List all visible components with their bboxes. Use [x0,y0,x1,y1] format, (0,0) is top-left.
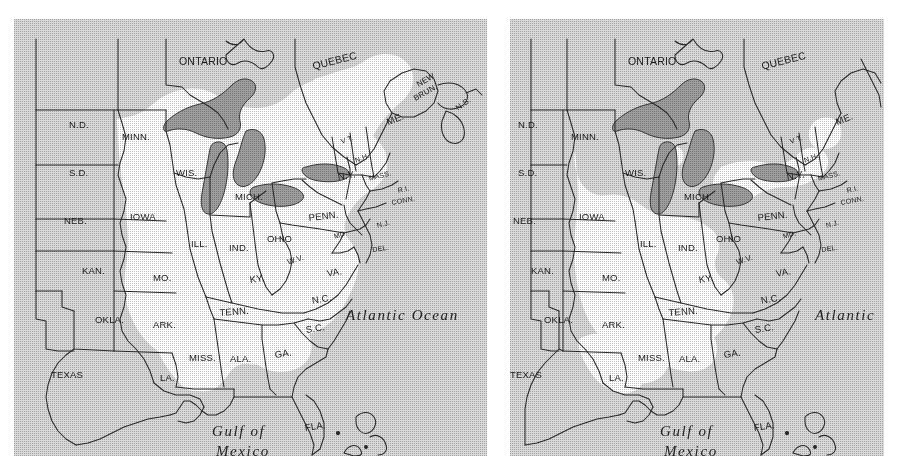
right-map-graphic [510,19,884,456]
paired-range-map-figure: ONTARIOQUEBECNEWBRUN.N.S.N.D.MINN.ME.S.D… [0,0,898,466]
left-map-graphic [14,19,487,456]
right-map-panel: ONTARIOQUEBECN.D.MINN.ME.S.D.WIS.V T.N.Y… [510,19,884,456]
left-map-panel: ONTARIOQUEBECNEWBRUN.N.S.N.D.MINN.ME.S.D… [14,19,487,456]
